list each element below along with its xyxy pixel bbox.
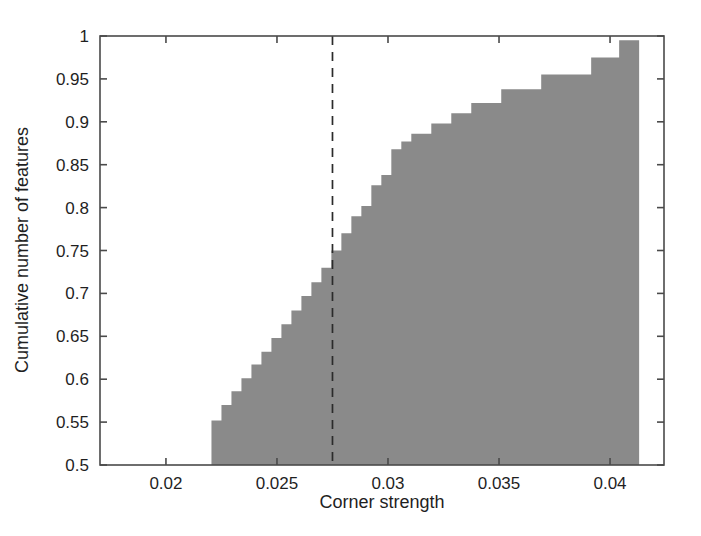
y-tick-label: 0.75 [56, 242, 89, 261]
y-tick-label: 0.5 [65, 456, 89, 475]
y-axis-title: Cumulative number of features [12, 127, 32, 373]
y-tick-label: 1 [80, 27, 89, 46]
x-tick-label: 0.025 [256, 474, 299, 493]
y-tick-label: 0.95 [56, 70, 89, 89]
y-tick-label: 0.6 [65, 370, 89, 389]
x-tick-label: 0.03 [371, 474, 404, 493]
cumulative-distribution-chart: 0.020.0250.030.0350.04 0.50.550.60.650.7… [0, 0, 701, 536]
y-tick-label: 0.55 [56, 413, 89, 432]
y-tick-label: 0.65 [56, 327, 89, 346]
chart-figure: 0.020.0250.030.0350.04 0.50.550.60.650.7… [0, 0, 701, 536]
x-tick-label: 0.04 [593, 474, 626, 493]
x-tick-label: 0.035 [478, 474, 521, 493]
y-tick-label: 0.8 [65, 199, 89, 218]
x-axis-title: Corner strength [319, 492, 444, 512]
y-tick-label: 0.9 [65, 113, 89, 132]
x-tick-label: 0.02 [149, 474, 182, 493]
y-tick-label: 0.85 [56, 156, 89, 175]
y-tick-label: 0.7 [65, 284, 89, 303]
